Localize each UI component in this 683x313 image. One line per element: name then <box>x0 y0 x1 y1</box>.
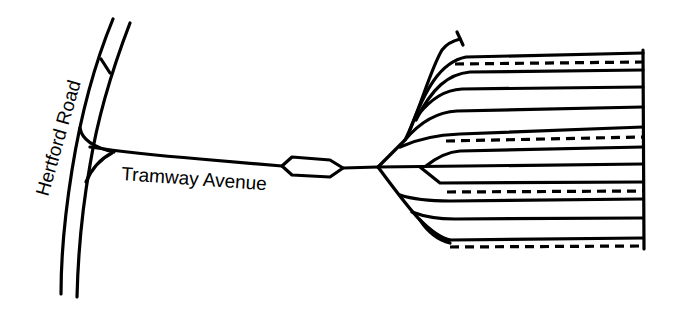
approach-track <box>343 167 378 168</box>
tramway-avenue-label: Tramway Avenue <box>121 163 268 194</box>
track-diagram: Hertford Road Tramway Avenue <box>0 0 683 313</box>
hertford-road-tracks <box>61 19 130 297</box>
depot-fan <box>378 32 644 249</box>
tramway-avenue-track <box>90 147 282 166</box>
passing-loop <box>282 157 343 177</box>
